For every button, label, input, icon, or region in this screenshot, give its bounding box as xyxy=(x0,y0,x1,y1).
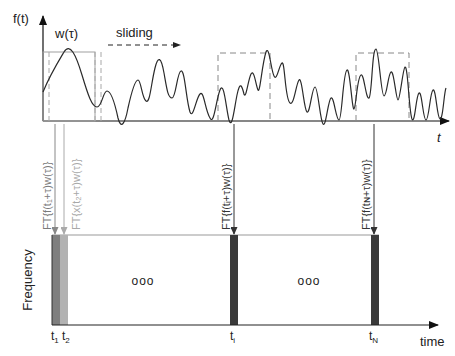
time-axis-label: time xyxy=(420,334,445,349)
t-axis-label: t xyxy=(437,130,442,145)
window-label: w(τ) xyxy=(54,26,78,41)
signal-curve xyxy=(43,49,446,125)
tick-ti: ti xyxy=(230,329,235,345)
ft-label-ti: FT{f(tᵢ+τ)w(τ)} xyxy=(220,163,232,230)
ft-label-tN: FT{f(tɴ+τ)w(τ)} xyxy=(360,159,372,230)
tick-ti-sub: i xyxy=(233,336,235,345)
ellipsis-2: ooo xyxy=(297,274,320,288)
ft-arrows: FT{f(t₁+τ)w(τ)} FT{x(t₂+τ)w(τ)} FT{f(tᵢ+… xyxy=(41,124,374,234)
tick-t1: t1 xyxy=(51,329,59,345)
tick-t2: t2 xyxy=(62,329,70,345)
frequency-axis-label: Frequency xyxy=(20,249,35,311)
window-w-tau xyxy=(43,52,95,121)
bar-t1 xyxy=(52,235,60,325)
bar-tN xyxy=(371,235,379,325)
ellipsis-1: ooo xyxy=(131,274,154,288)
top-signal-panel: f(t) t w(τ) sliding xyxy=(13,11,449,145)
tick-tN: tN xyxy=(369,329,378,345)
window-ti xyxy=(218,53,270,121)
bar-ti xyxy=(230,235,238,325)
tick-tN-sub: N xyxy=(372,336,378,345)
ft-label-t1: FT{f(t₁+τ)w(τ)} xyxy=(41,161,53,230)
spectrogram-panel: Frequency time ooo ooo t1 t2 ti tN xyxy=(20,235,445,349)
ft-label-t2: FT{x(t₂+τ)w(τ)} xyxy=(70,158,82,230)
tick-t2-sub: 2 xyxy=(65,336,70,345)
sliding-label: sliding xyxy=(116,25,153,40)
bar-t2 xyxy=(60,235,68,325)
f-axis-label: f(t) xyxy=(13,11,29,26)
tick-t1-sub: 1 xyxy=(54,336,59,345)
stft-diagram: f(t) t w(τ) sliding FT{f(t₁+τ)w(τ)} FT{x… xyxy=(0,0,455,356)
